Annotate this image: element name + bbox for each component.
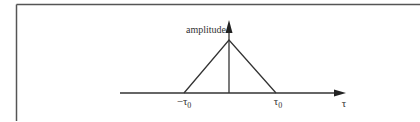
horizontal-axis-label: τ bbox=[342, 97, 347, 109]
tick-label-neg-tau0: −τ0 bbox=[177, 95, 192, 110]
horizontal-axis bbox=[120, 90, 346, 97]
vertical-axis bbox=[226, 20, 233, 93]
vertical-axis-arrow-icon bbox=[226, 20, 233, 33]
triangular-pulse-diagram: amplitude −τ0 τ0 τ bbox=[0, 0, 420, 121]
frame bbox=[17, 5, 420, 122]
horizontal-axis-arrow-icon bbox=[334, 90, 346, 97]
triangle-pulse-curve bbox=[184, 40, 276, 93]
tick-label-tau0: τ0 bbox=[274, 95, 282, 110]
vertical-axis-label: amplitude bbox=[186, 24, 227, 35]
